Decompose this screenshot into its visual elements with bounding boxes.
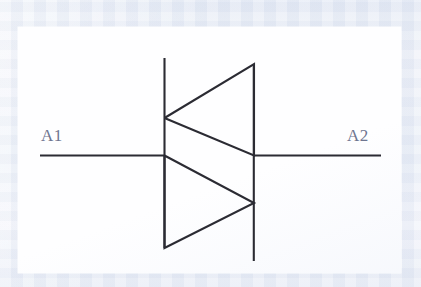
scanned-page-background: A1 A2 (0, 0, 421, 287)
triangle-lower-right-pointing (165, 156, 255, 249)
symbol-strokes (40, 58, 381, 261)
terminal-label-a1: A1 (41, 126, 63, 146)
triangle-upper-left-pointing (165, 64, 255, 156)
terminal-label-a2: A2 (347, 126, 369, 146)
